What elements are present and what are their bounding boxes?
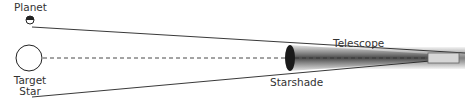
- planet-ray-bottom: [32, 61, 430, 97]
- starshade-icon: [285, 45, 295, 71]
- telescope-label: Telescope: [333, 38, 384, 49]
- planet-ray-top: [32, 27, 465, 53]
- starshade-label: Starshade: [270, 77, 323, 88]
- target-star-label: Target Star: [13, 75, 47, 97]
- starshade-diagram: [0, 0, 473, 101]
- target-star-icon: [16, 45, 42, 71]
- target-star-label-line2: Star: [13, 86, 47, 97]
- planet-label: Planet: [14, 2, 47, 13]
- telescope-icon: [428, 53, 459, 63]
- planet-icon: [26, 16, 34, 24]
